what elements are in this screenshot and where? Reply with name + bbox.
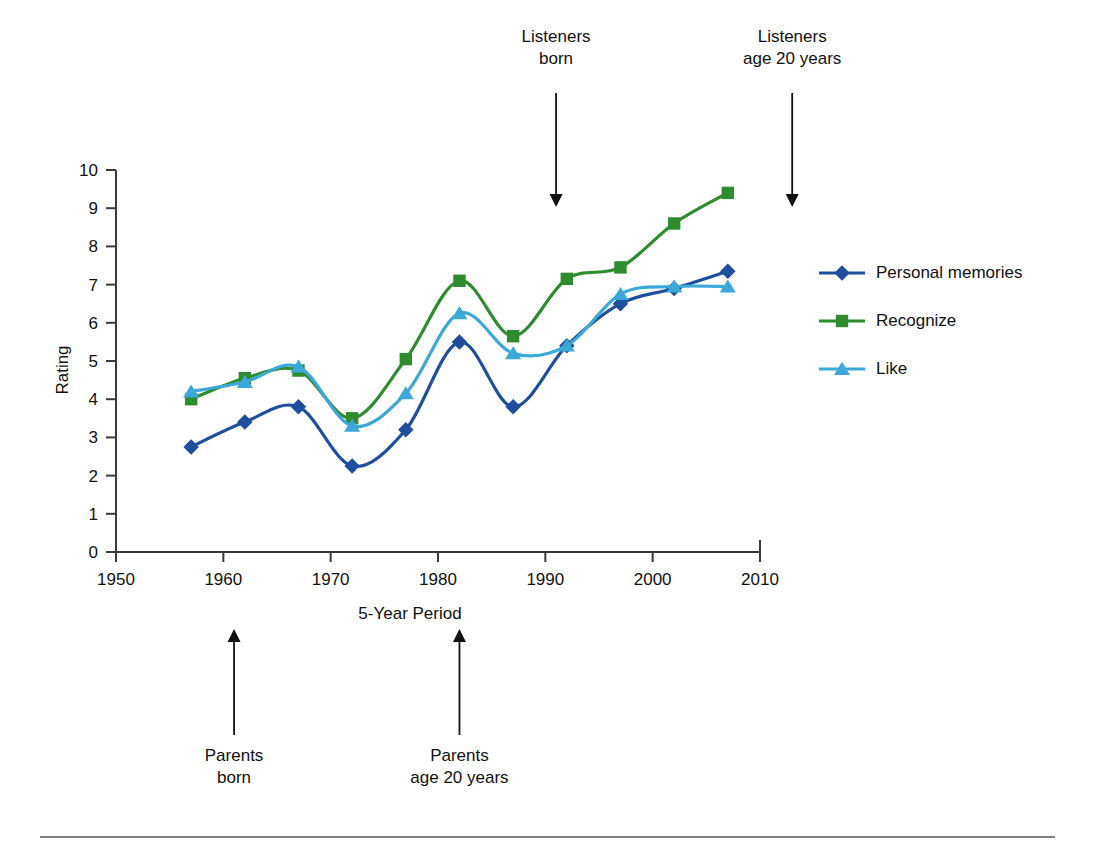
y-tick-label: 5 xyxy=(89,352,98,371)
legend-item-personal-memories[interactable]: Personal memories xyxy=(818,262,1022,284)
legend-marker-triangle-icon xyxy=(818,359,866,379)
legend-label: Recognize xyxy=(876,311,956,331)
data-point-diamond xyxy=(452,334,468,350)
annotation-line-1: Parents xyxy=(329,745,589,767)
series-line xyxy=(191,193,728,418)
data-point-triangle xyxy=(505,346,521,359)
y-tick-label: 0 xyxy=(89,543,98,562)
y-tick-label: 7 xyxy=(89,276,98,295)
data-point-triangle xyxy=(612,287,628,300)
y-tick-label: 8 xyxy=(89,237,98,256)
annotation-line-1: Listeners xyxy=(426,26,686,48)
annotation-listeners-age-20: Listenersage 20 years xyxy=(662,26,922,71)
x-tick-label: 1990 xyxy=(526,570,564,589)
annotation-line-2: age 20 years xyxy=(329,767,589,789)
y-axis-ticks: 012345678910 xyxy=(79,161,116,562)
legend-item-like[interactable]: Like xyxy=(818,358,907,380)
y-tick-label: 10 xyxy=(79,161,98,180)
y-tick-label: 3 xyxy=(89,428,98,447)
y-tick-label: 2 xyxy=(89,467,98,486)
annotation-arrow-head xyxy=(786,194,799,207)
annotation-listeners-born: Listenersborn xyxy=(426,26,686,71)
x-tick-label: 1970 xyxy=(312,570,350,589)
x-tick-label: 1960 xyxy=(204,570,242,589)
x-tick-label: 2010 xyxy=(741,570,779,589)
data-point-diamond xyxy=(505,399,521,415)
annotation-line-1: Parents xyxy=(104,745,364,767)
annotation-line-2: born xyxy=(104,767,364,789)
data-point-square xyxy=(453,275,465,287)
legend-marker-square-icon xyxy=(818,311,866,331)
y-tick-label: 4 xyxy=(89,390,98,409)
series-personal-memories xyxy=(183,263,735,473)
data-point-square xyxy=(668,217,680,229)
data-point-square xyxy=(614,261,626,273)
annotation-line-2: born xyxy=(426,48,686,70)
data-point-diamond xyxy=(834,265,850,281)
annotation-arrow-head xyxy=(550,194,563,207)
y-tick-label: 9 xyxy=(89,199,98,218)
y-tick-label: 6 xyxy=(89,314,98,333)
y-tick-label: 1 xyxy=(89,505,98,524)
annotation-parents-age-20: Parentsage 20 years xyxy=(329,745,589,790)
x-tick-label: 1950 xyxy=(97,570,135,589)
annotation-line-1: Listeners xyxy=(662,26,922,48)
legend-label: Personal memories xyxy=(876,263,1022,283)
chart-series-layer xyxy=(183,187,736,474)
x-tick-label: 1980 xyxy=(419,570,457,589)
annotation-arrow-head xyxy=(228,629,241,642)
data-point-square xyxy=(836,315,848,327)
data-point-diamond xyxy=(183,439,199,455)
x-axis-ticks: 1950196019701980199020002010 xyxy=(97,552,779,589)
data-point-diamond xyxy=(344,458,360,474)
data-point-square xyxy=(507,330,519,342)
chart-figure: 012345678910 195019601970198019902000201… xyxy=(0,0,1095,849)
data-point-square xyxy=(400,353,412,365)
legend-item-recognize[interactable]: Recognize xyxy=(818,310,956,332)
series-like xyxy=(183,279,736,431)
data-point-diamond xyxy=(720,263,736,279)
legend-marker-diamond-icon xyxy=(818,263,866,283)
annotation-line-2: age 20 years xyxy=(662,48,922,70)
x-axis-title: 5-Year Period xyxy=(300,604,520,624)
annotation-arrow-head xyxy=(453,629,466,642)
data-point-square xyxy=(561,273,573,285)
line-chart-canvas: 012345678910 195019601970198019902000201… xyxy=(0,0,1095,849)
chart-axes xyxy=(116,170,760,552)
legend-label: Like xyxy=(876,359,907,379)
data-point-diamond xyxy=(237,414,253,430)
y-axis-title: Rating xyxy=(53,325,73,415)
data-point-square xyxy=(722,187,734,199)
x-tick-label: 2000 xyxy=(634,570,672,589)
annotation-parents-born: Parentsborn xyxy=(104,745,364,790)
series-recognize xyxy=(185,187,734,425)
